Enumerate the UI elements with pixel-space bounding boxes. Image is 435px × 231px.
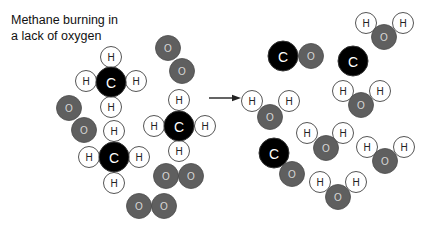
atom-o: O bbox=[326, 185, 351, 210]
reaction-arrow-icon bbox=[209, 95, 241, 101]
atom-h: H bbox=[310, 172, 331, 193]
atom-h: H bbox=[101, 97, 122, 118]
atom-o: O bbox=[127, 194, 152, 219]
reactants-group: HHHHCHHHHCHHHHCOOOOOOOO bbox=[57, 36, 216, 219]
atom-o: O bbox=[72, 118, 97, 143]
atom-h: H bbox=[242, 91, 263, 112]
atom-h: H bbox=[195, 116, 216, 137]
atom-label: H bbox=[107, 52, 114, 63]
atom-label: H bbox=[400, 142, 407, 153]
atom-label: H bbox=[376, 86, 383, 97]
atom-label: C bbox=[269, 146, 279, 162]
atom-label: C bbox=[106, 75, 116, 91]
atom-c: C bbox=[99, 142, 129, 172]
atom-label: H bbox=[399, 18, 406, 29]
atom-o: O bbox=[258, 105, 283, 130]
atom-h: H bbox=[394, 137, 415, 158]
atom-label: H bbox=[107, 102, 114, 113]
atom-h: H bbox=[144, 116, 165, 137]
molecule-water: HHO bbox=[357, 137, 415, 174]
atom-h: H bbox=[76, 71, 97, 92]
atom-c: C bbox=[164, 111, 194, 141]
atom-c: C bbox=[259, 138, 289, 168]
atom-h: H bbox=[104, 121, 125, 142]
atom-h: H bbox=[393, 13, 414, 34]
molecule-oxygen: OO bbox=[57, 96, 97, 143]
atom-label: O bbox=[178, 66, 186, 77]
atom-label: O bbox=[80, 125, 88, 136]
atom-h: H bbox=[129, 147, 150, 168]
atom-o: O bbox=[179, 164, 204, 189]
atom-h: H bbox=[126, 71, 147, 92]
molecule-carbon-monoxide: CO bbox=[259, 138, 305, 187]
atom-label: O bbox=[266, 112, 274, 123]
atom-label: H bbox=[150, 121, 157, 132]
atom-h: H bbox=[297, 123, 318, 144]
atom-label: H bbox=[352, 177, 359, 188]
molecule-oxygen: OO bbox=[127, 194, 177, 219]
molecule-carbon: C bbox=[338, 46, 368, 76]
atom-label: O bbox=[380, 32, 388, 43]
atom-label: H bbox=[303, 128, 310, 139]
atom-label: H bbox=[175, 95, 182, 106]
molecule-oxygen: OO bbox=[156, 36, 195, 84]
atom-label: H bbox=[175, 146, 182, 157]
atom-label: H bbox=[339, 128, 346, 139]
reaction-diagram: HHHHCHHHHCHHHHCOOOOOOOO COCCOHHOHHOHHOHH… bbox=[0, 0, 435, 231]
atom-label: H bbox=[132, 76, 139, 87]
atom-label: H bbox=[110, 178, 117, 189]
atom-label: H bbox=[201, 121, 208, 132]
atom-label: O bbox=[322, 143, 330, 154]
atom-label: O bbox=[187, 171, 195, 182]
atom-label: O bbox=[307, 51, 315, 62]
atom-label: O bbox=[65, 103, 73, 114]
products-group: COCCOHHOHHOHHOHHOHHOHHO bbox=[242, 13, 415, 210]
atom-h: H bbox=[169, 141, 190, 162]
atom-label: O bbox=[135, 201, 143, 212]
atom-label: O bbox=[288, 169, 296, 180]
atom-label: H bbox=[110, 126, 117, 137]
atom-label: H bbox=[135, 152, 142, 163]
atom-h: H bbox=[79, 147, 100, 168]
atom-label: O bbox=[164, 43, 172, 54]
atom-o: O bbox=[156, 36, 181, 61]
atom-h: H bbox=[104, 173, 125, 194]
atom-label: O bbox=[334, 192, 342, 203]
atom-o: O bbox=[154, 164, 179, 189]
atom-label: H bbox=[362, 18, 369, 29]
atom-label: O bbox=[381, 156, 389, 167]
atom-o: O bbox=[57, 96, 82, 121]
molecule-water: HHO bbox=[333, 81, 391, 118]
atom-label: H bbox=[316, 177, 323, 188]
atom-label: O bbox=[357, 100, 365, 111]
atom-o: O bbox=[280, 162, 305, 187]
atom-label: H bbox=[82, 76, 89, 87]
atom-label: O bbox=[160, 201, 168, 212]
atom-c: C bbox=[96, 67, 126, 97]
atom-o: O bbox=[299, 44, 324, 69]
molecule-methane: HHHHC bbox=[76, 47, 147, 118]
molecule-water: HHO bbox=[242, 91, 300, 130]
atom-o: O bbox=[372, 25, 397, 50]
atom-c: C bbox=[268, 41, 298, 71]
atom-h: H bbox=[370, 81, 391, 102]
atom-label: C bbox=[348, 54, 358, 70]
atom-label: H bbox=[85, 152, 92, 163]
atom-label: H bbox=[363, 142, 370, 153]
molecule-water: HHO bbox=[356, 13, 414, 50]
atom-c: C bbox=[338, 46, 368, 76]
atom-label: H bbox=[339, 86, 346, 97]
atom-o: O bbox=[152, 194, 177, 219]
molecule-carbon-monoxide: CO bbox=[268, 41, 324, 71]
atom-label: H bbox=[248, 96, 255, 107]
atom-h: H bbox=[346, 172, 367, 193]
atom-o: O bbox=[314, 136, 339, 161]
atom-o: O bbox=[170, 59, 195, 84]
atom-label: C bbox=[174, 119, 184, 135]
atom-label: C bbox=[278, 49, 288, 65]
molecule-oxygen: OO bbox=[154, 164, 204, 189]
atom-label: O bbox=[162, 171, 170, 182]
molecule-water: HHO bbox=[310, 172, 367, 210]
atom-o: O bbox=[349, 93, 374, 118]
atom-label: H bbox=[285, 96, 292, 107]
